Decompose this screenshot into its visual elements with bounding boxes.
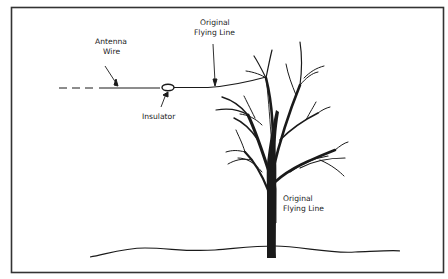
antenna-tree-diagram: Antenna Wire Insulator Original Flying L… bbox=[0, 0, 448, 279]
antenna-wire-label-line1: Antenna bbox=[95, 37, 127, 46]
flying-line-top-label-line2: Flying Line bbox=[194, 28, 235, 37]
antenna-wire-label-line2: Wire bbox=[103, 47, 120, 56]
flying-line-bottom-label-line1: Original bbox=[283, 194, 313, 203]
flying-line-top-label-line1: Original bbox=[200, 18, 230, 27]
insulator-label: Insulator bbox=[142, 112, 176, 121]
insulator-icon bbox=[162, 84, 174, 90]
flying-line-bottom-label-line2: Flying Line bbox=[283, 204, 324, 213]
diagram-frame bbox=[12, 8, 444, 273]
